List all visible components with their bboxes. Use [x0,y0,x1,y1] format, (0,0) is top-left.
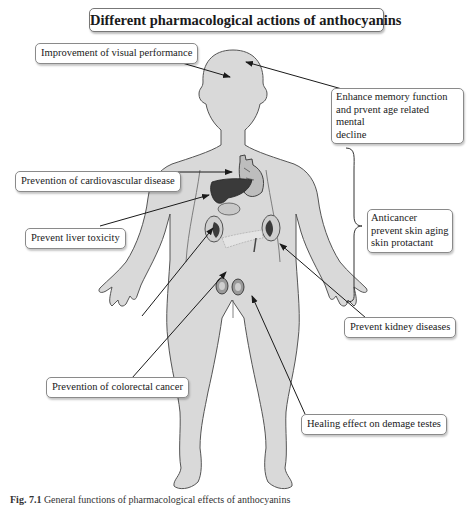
label-skin-anticancer: Anticancer prevent skin aging skin prota… [367,209,453,253]
label-liver-toxicity: Prevent liver toxicity [25,228,126,249]
label-cardiovascular: Prevention of cardiovascular disease [15,171,181,192]
stomach-organ [218,203,240,215]
label-memory-line-3: decline [336,129,459,142]
kidney-right-organ [262,215,280,241]
label-memory-function: Enhance memory function and prvent age r… [331,88,464,144]
label-skin-line-2: prevent skin aging [371,225,449,238]
label-colorectal-cancer: Prevention of colorectal cancer [46,377,189,398]
label-memory-line-2: and prvent age related mental [336,104,459,129]
label-kidney-diseases: Prevent kidney diseases [344,317,456,338]
label-visual-performance: Improvement of visual performance [35,43,198,64]
label-skin-line-3: skin protactant [371,237,449,250]
label-skin-line-1: Anticancer [371,212,449,225]
label-testes-healing: Healing effect on demage testes [301,414,447,435]
label-memory-line-1: Enhance memory function [336,91,459,104]
kidney-left-organ [205,216,223,242]
